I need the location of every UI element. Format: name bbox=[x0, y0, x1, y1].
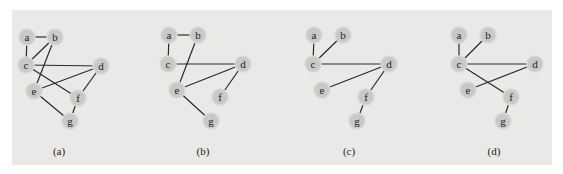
node-label: g bbox=[500, 115, 506, 127]
edge-d-e bbox=[468, 64, 535, 90]
node-d: d bbox=[381, 56, 397, 72]
node-c: c bbox=[18, 57, 34, 73]
graph-panel-d: abcdefg(d) bbox=[451, 27, 543, 158]
node-d: d bbox=[235, 56, 251, 72]
node-g: g bbox=[62, 113, 78, 129]
edge-b-e bbox=[177, 35, 198, 90]
node-label: b bbox=[340, 29, 346, 41]
node-c: c bbox=[305, 56, 321, 72]
panel-caption: (d) bbox=[488, 145, 501, 158]
node-b: b bbox=[190, 27, 206, 43]
node-f: f bbox=[212, 89, 228, 105]
node-label: b bbox=[485, 29, 491, 41]
node-label: c bbox=[24, 59, 29, 71]
node-b: b bbox=[47, 29, 63, 45]
node-label: d bbox=[532, 58, 538, 70]
node-label: d bbox=[240, 58, 246, 70]
graph-panel-a: abcdefg(a) bbox=[18, 29, 109, 158]
node-label: g bbox=[354, 115, 360, 127]
node-a: a bbox=[19, 29, 35, 45]
node-f: f bbox=[503, 89, 519, 105]
node-label: b bbox=[195, 29, 201, 41]
node-a: a bbox=[161, 27, 177, 43]
node-e: e bbox=[169, 82, 185, 98]
node-label: f bbox=[76, 92, 80, 104]
node-e: e bbox=[314, 82, 330, 98]
node-label: a bbox=[312, 29, 317, 41]
node-c: c bbox=[451, 56, 467, 72]
node-a: a bbox=[306, 27, 322, 43]
edge-d-e bbox=[177, 64, 243, 90]
node-label: e bbox=[175, 84, 180, 96]
node-d: d bbox=[93, 58, 109, 74]
node-label: e bbox=[32, 85, 37, 97]
node-label: d bbox=[386, 58, 392, 70]
node-f: f bbox=[70, 90, 86, 106]
node-b: b bbox=[480, 27, 496, 43]
edge-d-e bbox=[322, 64, 389, 90]
node-f: f bbox=[358, 89, 374, 105]
node-label: g bbox=[208, 115, 214, 127]
node-label: c bbox=[457, 58, 462, 70]
node-label: f bbox=[364, 91, 368, 103]
edge-d-e bbox=[34, 66, 101, 91]
node-label: d bbox=[98, 60, 104, 72]
panel-caption: (b) bbox=[197, 145, 210, 158]
panel-caption: (a) bbox=[53, 145, 66, 158]
node-label: e bbox=[466, 84, 471, 96]
node-label: f bbox=[509, 91, 513, 103]
node-c: c bbox=[160, 56, 176, 72]
graph-panel-c: abcdefg(c) bbox=[305, 27, 397, 158]
node-d: d bbox=[527, 56, 543, 72]
node-e: e bbox=[460, 82, 476, 98]
node-label: a bbox=[457, 29, 462, 41]
node-label: a bbox=[167, 29, 172, 41]
node-label: b bbox=[52, 31, 58, 43]
node-e: e bbox=[26, 83, 42, 99]
node-b: b bbox=[335, 27, 351, 43]
node-g: g bbox=[495, 113, 511, 129]
edge-c-d bbox=[26, 65, 101, 66]
node-g: g bbox=[349, 113, 365, 129]
graph-figure: abcdefg(a)abcdefg(b)abcdefg(c)abcdefg(d) bbox=[0, 0, 563, 174]
node-label: e bbox=[320, 84, 325, 96]
node-label: a bbox=[25, 31, 30, 43]
node-label: c bbox=[311, 58, 316, 70]
node-label: g bbox=[67, 115, 73, 127]
node-label: f bbox=[218, 91, 222, 103]
node-label: c bbox=[166, 58, 171, 70]
node-g: g bbox=[203, 113, 219, 129]
node-a: a bbox=[451, 27, 467, 43]
graph-panel-b: abcdefg(b) bbox=[160, 27, 251, 158]
panel-caption: (c) bbox=[343, 145, 356, 158]
